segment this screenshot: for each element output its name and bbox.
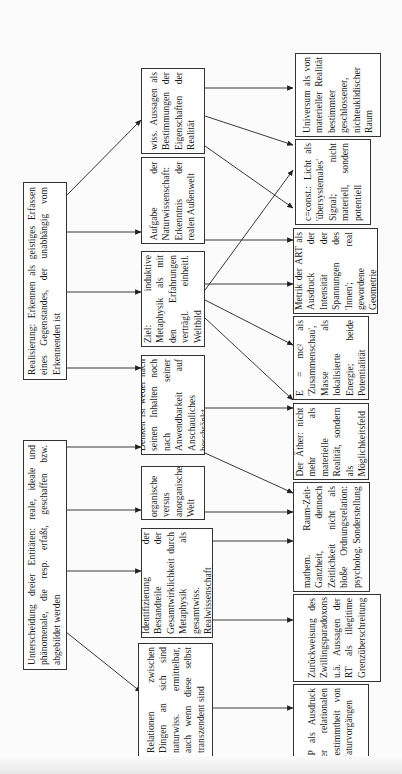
scanned-page: Realisierung: Erkennen als geistiges Erf… (0, 0, 402, 774)
middle-box-identifizierung: Identifizierung der Bestandteile der Ges… (141, 528, 213, 638)
box-text: Identifizierung der Bestandteile der Ges… (141, 532, 213, 634)
box-text: Denken ist weder nach seinen Inhalten no… (141, 359, 205, 451)
box-text: Relationen zwischen Dingen an sich sind … (144, 647, 206, 753)
box-text: Ziel: induktive Metaphysik als mit den E… (142, 255, 204, 343)
box-text: organische versus anorganische Welt (148, 469, 198, 517)
middle-box-organische: organische versus anorganische Welt (141, 466, 205, 520)
middle-box-relationen: Relationen zwischen Dingen an sich sind … (138, 643, 213, 757)
scan-edge (0, 756, 402, 774)
box-text: Universum als von materieller Realität b… (301, 57, 375, 133)
middle-box-aufgabe: Aufgabe der Naturwissenschaft: Erkenntni… (141, 157, 205, 244)
box-text: Realisierung: Erkennen als geistiges Erf… (26, 187, 63, 375)
root-box-unterscheidung: Unterscheidung dreier Entitäten: reale, … (23, 440, 67, 670)
box-text: Unterscheidung dreier Entitäten: reale, … (26, 445, 63, 665)
box-text: Der Äther: nicht mehr als materielle Rea… (294, 407, 368, 476)
box-text: RP als Ausdruck der relationalen Bestimm… (306, 688, 356, 762)
middle-box-ziel: Ziel: induktive Metaphysik als mit den E… (141, 251, 205, 347)
right-box-rp: RP als Ausdruck der relationalen Bestimm… (293, 684, 369, 766)
middle-box-wiss-aussagen: wiss. Aussagen als Bestimmungen der Eige… (141, 68, 205, 154)
right-box-zurueckweisung: Zurückweisung des Zwillingsparadoxons u.… (293, 594, 381, 682)
middle-box-denken: Denken ist weder nach seinen Inhalten no… (141, 355, 205, 455)
box-text: wiss. Aussagen als Bestimmungen der Eige… (148, 72, 198, 150)
right-box-universum: Universum als von materieller Realität b… (295, 53, 381, 137)
box-text: Metrik der ART als Ausdruck der Intensit… (293, 232, 378, 310)
box-text: E = mc² als 'Zusammenschau', Masse als l… (294, 320, 368, 396)
right-box-c-const: c=const.: Licht als 'übersystemales' Sig… (295, 139, 371, 225)
right-box-aether: Der Äther: nicht mehr als materielle Rea… (293, 403, 369, 480)
box-text: c=const.: Licht als 'übersystemales' Sig… (302, 143, 364, 221)
root-box-realisierung: Realisierung: Erkennen als geistiges Erf… (23, 182, 67, 380)
right-box-emc2: E = mc² als 'Zusammenschau', Masse als l… (293, 316, 369, 400)
right-box-mathem: mathem. Raum-Zeit-Ganzheit, dennoch Zeit… (293, 482, 370, 592)
box-text: Aufgabe der Naturwissenschaft: Erkenntni… (148, 161, 198, 240)
right-box-metrik: Metrik der ART als Ausdruck der Intensit… (293, 228, 378, 314)
box-text: Zurückweisung des Zwillingsparadoxons u.… (306, 598, 368, 678)
box-text: mathem. Raum-Zeit-Ganzheit, dennoch Zeit… (300, 486, 362, 588)
